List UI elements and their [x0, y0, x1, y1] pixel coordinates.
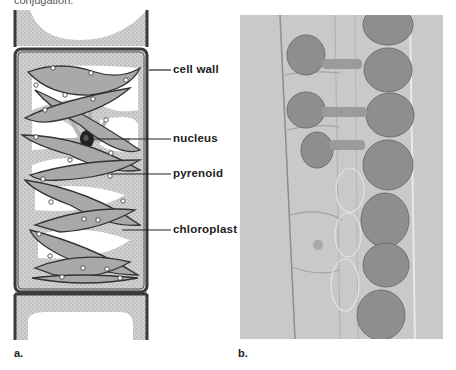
- label-chloroplast: chloroplast: [173, 223, 237, 235]
- spirogyra-cell-diagram: [0, 0, 240, 370]
- main-cell: [15, 49, 147, 292]
- lower-cell: [15, 294, 147, 340]
- label-cell-wall: cell wall: [173, 63, 219, 75]
- upper-cell: [15, 10, 147, 47]
- label-pyrenoid: pyrenoid: [173, 167, 223, 179]
- label-nucleus: nucleus: [173, 132, 218, 144]
- conjugation-micrograph: [240, 15, 443, 339]
- panel-a-letter: a.: [14, 347, 23, 359]
- panel-b-letter: b.: [238, 347, 248, 359]
